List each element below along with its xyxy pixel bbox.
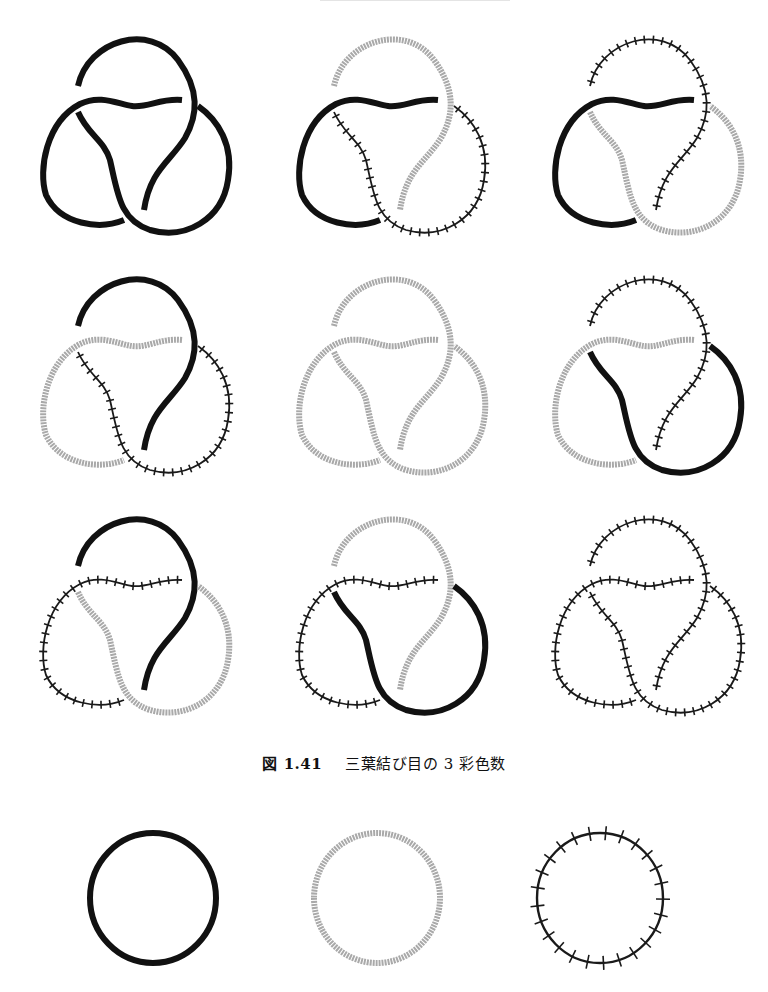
tick-mark — [644, 276, 645, 284]
trefoil-knot-diagram — [512, 500, 768, 740]
tick-mark — [702, 351, 710, 352]
unknot-path — [537, 833, 663, 963]
tick-mark — [635, 277, 637, 285]
tick-mark — [737, 652, 745, 653]
tick-mark — [295, 660, 303, 661]
tick-mark — [600, 577, 602, 585]
arc-right-black — [334, 586, 485, 713]
tick-mark — [701, 600, 709, 602]
tick-mark — [618, 639, 626, 641]
tick-mark — [701, 360, 709, 362]
tick-mark — [605, 826, 606, 840]
arc-top-ticked — [590, 519, 707, 690]
tick-mark — [344, 577, 346, 585]
tick-mark — [106, 576, 107, 584]
tick-mark — [554, 633, 562, 635]
arc-left-grey — [43, 340, 182, 465]
tick-mark — [39, 660, 47, 661]
tick-mark — [645, 582, 646, 590]
trefoil-panel-r1c3 — [512, 20, 768, 260]
tick-mark — [531, 887, 545, 889]
tick-mark — [415, 578, 417, 586]
arc-right-ticked — [334, 106, 485, 233]
tick-mark — [150, 580, 152, 588]
arc-left-ticked — [555, 580, 694, 705]
tick-mark — [702, 591, 710, 592]
tick-mark — [82, 699, 84, 707]
arc-left-black — [299, 100, 438, 225]
tick-mark — [544, 854, 555, 862]
figure-number: 図 1.41 — [262, 755, 322, 773]
tick-mark — [133, 582, 134, 590]
tick-mark — [398, 582, 399, 590]
tick-mark — [735, 625, 743, 627]
tick-mark — [225, 394, 233, 395]
unknot-row — [0, 820, 768, 980]
tick-mark — [371, 194, 379, 196]
tick-mark — [479, 145, 487, 147]
tick-mark — [655, 676, 663, 678]
tick-mark — [604, 700, 605, 708]
arc-top-black — [78, 519, 195, 690]
tick-mark — [410, 227, 412, 235]
tick-mark — [655, 436, 663, 438]
arc-right-ticked — [590, 586, 741, 713]
trefoil-panel-r2c3 — [512, 260, 768, 500]
tick-mark — [631, 838, 639, 849]
trefoil-panel-r3c1 — [0, 500, 256, 740]
tick-mark — [627, 578, 629, 586]
tick-mark — [480, 181, 488, 182]
tick-mark — [587, 80, 595, 82]
tick-mark — [366, 177, 374, 179]
trefoil-coloring-grid — [0, 20, 768, 740]
tick-mark — [40, 642, 48, 643]
arc-top-grey — [334, 279, 451, 450]
trefoil-panel-r1c2 — [256, 20, 512, 260]
tick-mark — [553, 669, 561, 671]
tick-mark — [88, 577, 90, 585]
trefoil-knot-diagram — [0, 260, 256, 500]
tick-mark — [693, 707, 695, 715]
arc-top-grey — [334, 39, 451, 210]
tick-mark — [635, 517, 637, 525]
trefoil-knot-diagram — [256, 500, 512, 740]
tick-mark — [379, 581, 381, 589]
unknot-ticked — [512, 820, 768, 980]
trefoil-knot-diagram — [0, 20, 256, 260]
arc-right-grey — [334, 346, 485, 473]
tick-mark — [734, 669, 742, 671]
tick-mark — [108, 408, 116, 410]
tick-mark — [661, 37, 663, 45]
tick-mark — [222, 429, 230, 431]
tick-mark — [297, 669, 305, 671]
tick-mark — [223, 385, 231, 387]
unknot-grey — [256, 820, 512, 980]
tick-mark — [653, 205, 661, 206]
tick-mark — [736, 661, 744, 662]
header-text-clipped — [320, 0, 510, 1]
tick-mark — [671, 578, 673, 586]
tick-mark — [594, 699, 596, 707]
tick-mark — [296, 642, 304, 643]
tick-mark — [630, 698, 632, 706]
arc-right-ticked — [78, 346, 229, 473]
tick-mark — [109, 700, 110, 708]
tick-mark — [142, 582, 143, 590]
tick-mark — [338, 699, 340, 707]
tick-mark — [587, 560, 595, 562]
trefoil-panel-r2c2 — [256, 260, 512, 500]
tick-mark — [680, 576, 681, 584]
tick-mark — [365, 700, 366, 708]
tick-mark — [424, 576, 425, 584]
tick-mark — [684, 708, 685, 716]
tick-mark — [225, 412, 233, 413]
arc-right-black — [78, 106, 229, 233]
tick-mark — [362, 576, 363, 584]
unknot-black — [0, 820, 256, 980]
trefoil-knot-diagram — [0, 500, 256, 740]
tick-mark — [92, 700, 93, 708]
figure-title: 三葉結び目の 3 彩色数 — [345, 755, 505, 773]
tick-mark — [41, 669, 49, 671]
tick-mark — [630, 947, 638, 959]
tick-mark — [653, 276, 654, 284]
